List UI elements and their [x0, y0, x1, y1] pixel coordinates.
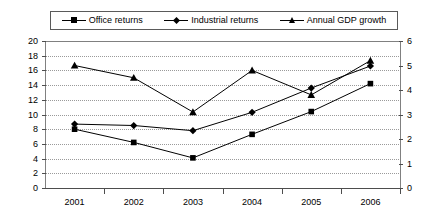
- data-point: [307, 91, 315, 98]
- data-point: [189, 108, 197, 115]
- data-point: [71, 62, 79, 69]
- data-point: [189, 127, 196, 134]
- data-point: [368, 81, 374, 87]
- data-point: [308, 84, 315, 91]
- data-point: [367, 57, 375, 64]
- data-point: [190, 155, 196, 161]
- data-point: [248, 109, 255, 116]
- data-point: [130, 122, 137, 129]
- chart-figure: Office returns Industrial returns Annual…: [0, 0, 445, 222]
- series-line-office-returns: [75, 84, 371, 158]
- series-layer: [0, 0, 445, 222]
- data-point: [248, 67, 256, 74]
- data-point: [249, 132, 255, 138]
- data-point: [308, 109, 314, 115]
- series-line-industrial-returns: [75, 66, 371, 131]
- data-point: [131, 140, 137, 146]
